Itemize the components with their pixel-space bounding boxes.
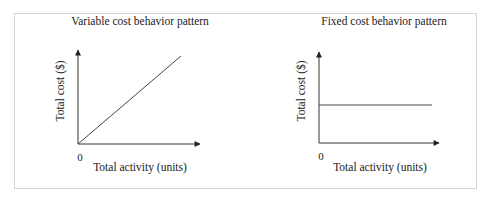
origin-label-fixed: 0 — [318, 150, 324, 162]
chart-title-fixed: Fixed cost behavior pattern — [321, 15, 447, 28]
fixed-cost-chart: Fixed cost behavior pattern Total cost (… — [295, 15, 447, 174]
y-axis-label-fixed: Total cost ($) — [295, 60, 308, 121]
chart-title-variable: Variable cost behavior pattern — [71, 15, 209, 28]
y-axis-label-variable: Total cost ($) — [54, 60, 67, 121]
x-axis-label-variable: Total activity (units) — [93, 161, 187, 174]
cost-behavior-figure: Variable cost behavior pattern Total cos… — [0, 0, 495, 199]
origin-label-variable: 0 — [77, 151, 83, 163]
variable-cost-line — [78, 56, 181, 144]
variable-cost-chart: Variable cost behavior pattern Total cos… — [54, 15, 209, 174]
x-axis-label-fixed: Total activity (units) — [333, 161, 427, 174]
